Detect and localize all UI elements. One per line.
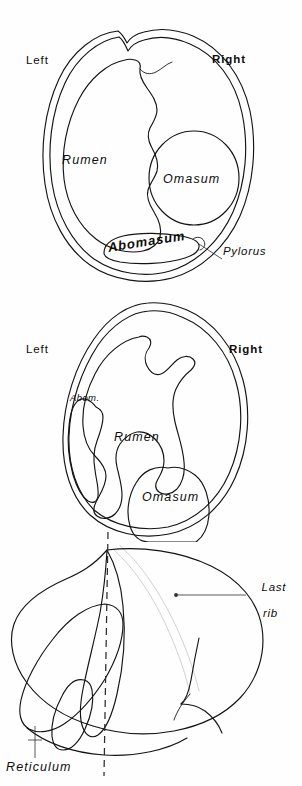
caudal-fold-detail-3 (174, 694, 190, 720)
abomasum-outline (68, 399, 103, 503)
anatomical-figure: Left Right Rumen Omasum Abomasum Pylorus… (0, 0, 302, 786)
ventral-sac-outline (80, 550, 124, 737)
stomach-mass-outline (12, 549, 263, 734)
reticulum-outline (52, 680, 93, 750)
panel1-rumen-label: Rumen (62, 153, 108, 167)
panel3-last-rib-label: Last rib (246, 568, 286, 646)
panel1-omasum-label: Omasum (163, 172, 220, 186)
ventral-contour (27, 728, 187, 755)
last-rib-line-1: Last (262, 581, 287, 593)
caudal-fold-detail-2 (181, 704, 222, 733)
panel-lateral-view (0, 528, 302, 786)
panel2-left-label: Left (26, 343, 49, 355)
dorsal-sac-outline (20, 604, 123, 732)
panel3-reticulum-label: Reticulum (6, 760, 71, 774)
last-rib-line-2: rib (246, 607, 286, 620)
panel2-abom-label: Abom. (70, 392, 99, 403)
panel2-omasum-label: Omasum (142, 490, 199, 504)
panel1-pylorus-label: Pylorus (223, 245, 266, 257)
last-rib-marker-dot (174, 593, 178, 597)
panel2-rumen-label: Rumen (114, 430, 160, 444)
rumen-dorsal-notch (140, 62, 172, 74)
panel2-right-label: Right (229, 343, 263, 355)
last-rib-outline (120, 546, 199, 691)
last-rib-outline-inner (114, 550, 190, 694)
panel1-right-label: Right (212, 53, 246, 65)
panel1-left-label: Left (26, 54, 49, 66)
panel-caudal-cross-section (0, 292, 302, 542)
